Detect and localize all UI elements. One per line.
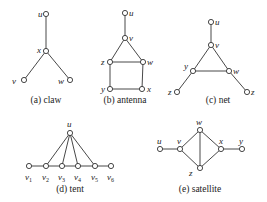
- panel-caption-d: (d) tent: [56, 184, 84, 195]
- vertex-subscript: 5: [95, 177, 98, 183]
- vertex-v: [21, 77, 26, 82]
- vertex-label-w: w: [233, 66, 239, 76]
- vertex-subscript: 1: [29, 177, 32, 183]
- vertex-label-z2: z: [250, 87, 255, 97]
- vertex-y: [190, 68, 195, 73]
- vertex-label-v2: v2: [42, 172, 49, 183]
- vertex-label-u: u: [67, 119, 72, 129]
- vertex-label-y: y: [238, 136, 243, 146]
- vertex-u: [43, 11, 48, 16]
- vertex-y: [107, 86, 112, 91]
- vertex-label-u: u: [157, 136, 162, 146]
- vertex-v4: [75, 163, 80, 168]
- panel-caption-c: (c) net: [206, 95, 231, 106]
- vertex-v: [122, 35, 127, 40]
- vertex-label-v1: v1: [25, 172, 32, 183]
- vertex-label-w: w: [58, 76, 64, 86]
- vertex-y: [239, 146, 244, 151]
- edge-w-x: [200, 130, 221, 149]
- graph-panels: uxvw(a) clawuvzwyx(b) antennauvywzz(c) n…: [12, 8, 255, 195]
- vertex-label-z: z: [100, 57, 105, 67]
- vertex-w: [67, 77, 72, 82]
- vertex-z: [107, 59, 112, 64]
- vertex-label-v6: v6: [107, 172, 114, 183]
- vertex-label-v3: v3: [58, 172, 65, 183]
- vertex-label-y: y: [100, 84, 105, 94]
- vertex-subscript: 2: [46, 177, 49, 183]
- vertex-subscript: 4: [78, 177, 81, 183]
- edge-v-y: [193, 45, 211, 71]
- edge-v-w: [125, 38, 143, 62]
- edge-v-w: [180, 130, 200, 149]
- vertex-label-x: x: [146, 84, 151, 94]
- vertex-x: [139, 86, 144, 91]
- edge-y-z1: [177, 71, 193, 92]
- vertex-label-v: v: [129, 33, 133, 43]
- vertex-u: [67, 130, 72, 135]
- vertex-label-z: z: [188, 168, 193, 178]
- vertex-subscript: 3: [62, 177, 65, 183]
- vertex-u: [208, 19, 213, 24]
- vertex-label-u: u: [38, 9, 43, 19]
- vertex-label-v: v: [215, 40, 219, 50]
- vertex-w: [197, 127, 202, 132]
- vertex-u: [122, 10, 127, 15]
- panel-caption-b: (b) antenna: [104, 95, 148, 106]
- vertex-v2: [43, 163, 48, 168]
- vertex-v6: [108, 163, 113, 168]
- vertex-u: [157, 146, 162, 151]
- edge-v-w: [211, 45, 229, 71]
- vertex-label-z1: z: [167, 87, 172, 97]
- vertex-x: [218, 146, 223, 151]
- vertex-w: [226, 68, 231, 73]
- vertex-label-u: u: [129, 8, 134, 18]
- vertex-label-u: u: [215, 17, 220, 27]
- panel-caption-a: (a) claw: [31, 95, 62, 106]
- vertex-v: [208, 42, 213, 47]
- vertex-label-v: v: [12, 76, 16, 86]
- vertex-label-x: x: [36, 45, 41, 55]
- vertex-label-x: x: [218, 136, 223, 146]
- vertex-subscript: 6: [111, 177, 114, 183]
- edge-v-z: [180, 149, 200, 168]
- vertex-v1: [26, 163, 31, 168]
- vertex-label-w: w: [196, 117, 202, 127]
- edge-w-x: [142, 62, 143, 89]
- panel-c: uvywzz(c) net: [167, 17, 255, 106]
- vertex-z: [197, 165, 202, 170]
- vertex-z2: [244, 89, 249, 94]
- vertex-label-y: y: [183, 61, 188, 71]
- panel-e: uvwzxy(e) satellite: [157, 117, 245, 195]
- vertex-v: [177, 146, 182, 151]
- vertex-v3: [59, 163, 64, 168]
- panel-caption-e: (e) satellite: [179, 184, 221, 195]
- panel-a: uxvw(a) claw: [12, 9, 73, 106]
- edge-v-z: [110, 38, 125, 62]
- edge-x-v: [24, 51, 46, 80]
- vertex-x: [43, 48, 48, 53]
- panel-d: uv1v2v3v4v5v6(d) tent: [25, 119, 114, 195]
- vertex-z1: [174, 89, 179, 94]
- edge-z-x: [200, 149, 221, 168]
- graph-figure: uxvw(a) clawuvzwyx(b) antennauvywzz(c) n…: [0, 0, 267, 202]
- vertex-v5: [92, 163, 97, 168]
- panel-b: uvzwyx(b) antenna: [100, 8, 153, 106]
- vertex-label-w: w: [147, 57, 153, 67]
- vertex-w: [140, 59, 145, 64]
- vertex-label-v5: v5: [91, 172, 98, 183]
- vertex-label-v: v: [177, 136, 181, 146]
- vertex-label-v4: v4: [74, 172, 81, 183]
